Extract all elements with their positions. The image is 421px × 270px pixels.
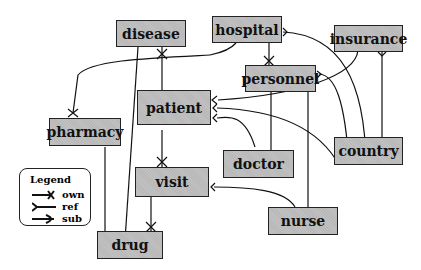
legend: Legend own ref sub — [19, 168, 91, 226]
link-nurse-visit — [214, 187, 295, 207]
entity-disease[interactable]: disease — [116, 20, 186, 47]
entity-country[interactable]: country — [334, 137, 403, 165]
entity-pharmacy[interactable]: pharmacy — [49, 118, 121, 146]
entity-visit[interactable]: visit — [135, 167, 209, 197]
entity-doctor[interactable]: doctor — [223, 150, 294, 178]
entity-nurse[interactable]: nurse — [268, 207, 338, 235]
link-patient-doctor — [217, 117, 255, 147]
entity-patient[interactable]: patient — [137, 90, 211, 125]
own-arrow-icon — [32, 190, 56, 200]
link-disease-drug — [124, 47, 138, 255]
entity-insurance[interactable]: insurance — [334, 25, 403, 52]
sub-arrow-icon — [32, 214, 56, 224]
legend-row-ref: ref — [32, 201, 78, 212]
entity-hospital[interactable]: hospital — [212, 16, 282, 43]
entity-personnel[interactable]: personnel — [245, 65, 316, 92]
entity-drug[interactable]: drug — [97, 231, 163, 259]
legend-row-own: own — [32, 189, 85, 200]
ref-arrow-icon — [32, 202, 56, 212]
legend-row-sub: sub — [32, 213, 82, 224]
legend-title: Legend — [30, 174, 71, 185]
